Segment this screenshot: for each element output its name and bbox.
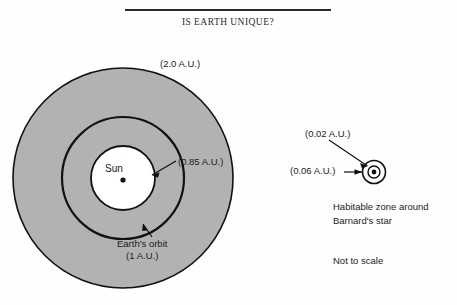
sun-center-dot	[120, 177, 125, 182]
barnard-outer-zone-label: (0.06 A.U.)	[290, 165, 335, 177]
barnard-caption-line1: Habitable zone around	[333, 200, 429, 214]
barnard-caption: Habitable zone around Barnard's star	[333, 200, 429, 227]
figure-canvas: IS EARTH UNIQUE?	[0, 0, 457, 305]
diagram-graphics	[0, 0, 457, 305]
barnard-caption-line2: Barnard's star	[333, 214, 429, 228]
sun-outer-zone-label: (2.0 A.U.)	[160, 58, 200, 70]
barnard-inner-zone-label: (0.02 A.U.)	[305, 128, 350, 140]
barnard-star-dot	[372, 170, 377, 175]
earth-orbit-label-line1: Earth's orbit	[117, 238, 167, 250]
sun-label: Sun	[105, 163, 123, 175]
sun-inner-zone-label: (0.85 A.U.)	[178, 156, 223, 168]
barnard-outer-leader	[344, 169, 362, 175]
not-to-scale-note: Not to scale	[333, 255, 383, 267]
earth-orbit-label-line2: (1 A.U.)	[117, 250, 167, 262]
earth-orbit-label: Earth's orbit (1 A.U.)	[117, 238, 167, 262]
